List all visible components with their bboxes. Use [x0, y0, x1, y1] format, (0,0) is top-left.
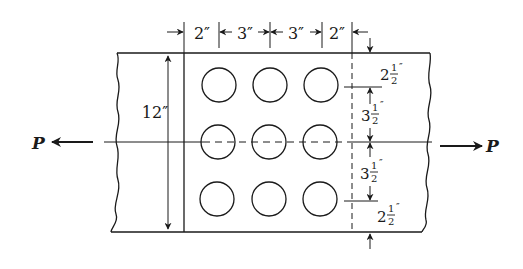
force-label-right: P: [485, 136, 500, 156]
right-dim-label: 3 1 2 ″: [361, 99, 384, 126]
svg-text:1: 1: [391, 62, 397, 73]
bolt-hole: [304, 68, 338, 102]
svg-text:2: 2: [377, 208, 387, 226]
svg-text:″: ″: [399, 61, 403, 72]
svg-text:1: 1: [371, 160, 377, 171]
bolt-hole: [202, 68, 236, 102]
svg-text:1: 1: [372, 102, 378, 113]
top-dim-label: 2″: [194, 24, 210, 43]
svg-text:″: ″: [379, 157, 383, 168]
bolt-hole: [252, 182, 286, 216]
svg-text:2: 2: [388, 216, 394, 227]
top-dim-label: 2″: [329, 24, 345, 43]
svg-text:3: 3: [361, 107, 371, 125]
right-dim-label: 2 1 2 ″: [377, 201, 400, 227]
svg-text:2: 2: [380, 66, 390, 84]
bolted-plate-diagram: P P 12″ 2″ 3″ 3″ 2″ 2 1 2 ″ 3 1 2 ″ 3 1 …: [0, 0, 523, 269]
svg-text:2: 2: [371, 173, 377, 184]
right-dim-label: 3 1 2 ″: [360, 157, 383, 184]
bolt-hole: [200, 182, 234, 216]
svg-text:″: ″: [396, 201, 400, 212]
top-dim-label: 3″: [288, 24, 304, 43]
svg-text:3: 3: [360, 165, 370, 183]
svg-text:2: 2: [372, 115, 378, 126]
right-dim-label: 2 1 2 ″: [380, 61, 403, 86]
plate-width-label: 12″: [142, 103, 168, 122]
top-dim-label: 3″: [237, 24, 253, 43]
svg-text:″: ″: [380, 99, 384, 110]
svg-text:1: 1: [388, 203, 394, 214]
bolt-hole: [303, 182, 337, 216]
bolt-hole: [253, 68, 287, 102]
force-label-left: P: [31, 133, 46, 153]
bolt-hole: [303, 125, 337, 159]
svg-text:2: 2: [391, 75, 397, 86]
